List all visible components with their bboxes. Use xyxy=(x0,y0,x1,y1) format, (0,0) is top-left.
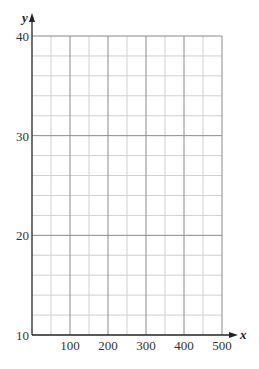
y-tick-label: 20 xyxy=(16,228,29,243)
y-tick-labels: 10203040 xyxy=(16,29,29,343)
x-tick-label: 500 xyxy=(212,338,232,353)
x-tick-label: 400 xyxy=(174,338,194,353)
x-axis-label: x xyxy=(239,327,247,342)
x-tick-label: 300 xyxy=(136,338,156,353)
y-tick-label: 30 xyxy=(16,129,29,144)
y-axis-label: y xyxy=(20,10,28,25)
y-arrow-icon xyxy=(29,13,35,22)
x-tick-label: 200 xyxy=(98,338,118,353)
x-tick-labels: 100200300400500 xyxy=(60,338,232,353)
y-tick-label: 40 xyxy=(16,29,29,44)
chart: y x 10203040 100200300400500 xyxy=(0,0,259,369)
minor-grid xyxy=(32,36,222,335)
x-tick-label: 100 xyxy=(60,338,80,353)
y-tick-label: 10 xyxy=(16,328,29,343)
